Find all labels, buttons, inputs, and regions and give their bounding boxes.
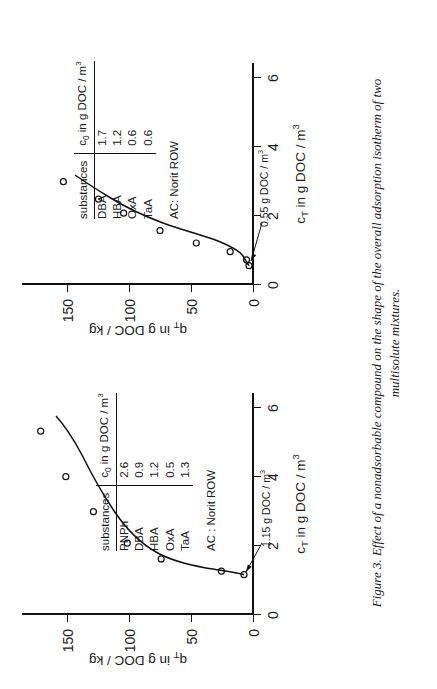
x-axis-sup-right: 3 bbox=[290, 124, 301, 129]
legend-c0-units-right: in g DOC / m bbox=[76, 66, 88, 136]
y-ticklabel-right-1: 50 bbox=[184, 299, 200, 315]
legend-row: HBA 1.2 bbox=[110, 61, 125, 219]
legend-row: TaA 1.3 bbox=[178, 393, 193, 551]
y-axis-symbol-right: q bbox=[180, 323, 188, 338]
legend-row: DBA 1.7 bbox=[95, 61, 111, 219]
legend-header-substances-right: substances bbox=[74, 153, 95, 219]
y-ticklabel-right-2: 100 bbox=[122, 299, 138, 322]
y-ticklabel-right-3: 150 bbox=[60, 299, 76, 322]
legend-ac-right: AC: Norit ROW bbox=[167, 61, 182, 219]
annotation-sup-right: 3 bbox=[256, 150, 265, 154]
legend-header-substances-left: substances bbox=[96, 485, 117, 551]
figure-caption: Figure 3. Effect of a nonadsorbable comp… bbox=[368, 57, 405, 629]
y-ticklabel-left-1: 50 bbox=[184, 629, 200, 645]
legend-substance-left-2: HBA bbox=[147, 485, 162, 551]
y-axis-title-left: qT in g DOC / kg bbox=[89, 650, 187, 668]
annotation-sup-left: 3 bbox=[258, 470, 267, 474]
x-tick-left-3 bbox=[254, 407, 261, 408]
legend-right: substances c0 in g DOC / m3 DBA 1.7 HBA … bbox=[74, 61, 182, 219]
x-axis-symbol-right: c bbox=[292, 217, 307, 224]
x-axis-title-right: cT in g DOC / m3 bbox=[290, 124, 310, 224]
legend-c0-right-3: 0.6 bbox=[141, 61, 156, 153]
legend-row: HBA 1.2 bbox=[147, 393, 162, 551]
x-axis-symbol-left: c bbox=[292, 547, 307, 554]
y-tick-right-2 bbox=[129, 285, 130, 292]
y-axis-sub-right: T bbox=[174, 320, 180, 331]
legend-c0-right-2: 0.6 bbox=[125, 61, 140, 153]
x-tick-right-3 bbox=[254, 77, 261, 78]
legend-substance-left-1: DBA bbox=[132, 485, 147, 551]
y-tick-left-3 bbox=[67, 615, 68, 622]
x-axis-units-right: in g DOC / m bbox=[292, 129, 307, 211]
y-axis-sub-left: T bbox=[174, 650, 180, 661]
y-ticklabel-left-2: 100 bbox=[122, 629, 138, 652]
legend-substance-right-0: DBA bbox=[95, 153, 111, 219]
y-axis-units-left: in g DOC / kg bbox=[89, 653, 174, 668]
page-rotator: 0 2 4 6 0 50 100 150 bbox=[0, 0, 437, 689]
legend-header-c0-left: c0 in g DOC / m3 bbox=[96, 393, 117, 485]
legend-c0-symbol-right: c bbox=[76, 140, 88, 146]
chart-panel-right: 0 2 4 6 0 50 100 150 bbox=[8, 41, 338, 341]
y-ticklabel-right-0: 0 bbox=[246, 299, 262, 307]
legend-substance-right-3: TaA bbox=[141, 153, 156, 219]
legend-c0-left-4: 1.3 bbox=[178, 393, 193, 485]
x-axis-sub-right: T bbox=[299, 211, 310, 217]
y-tick-left-0 bbox=[253, 615, 254, 622]
legend-c0-left-2: 1.2 bbox=[147, 393, 162, 485]
legend-substance-left-0: PNPh bbox=[117, 485, 133, 551]
legend-c0-left-1: 0.9 bbox=[132, 393, 147, 485]
legend-ac-left: AC : Norit ROW bbox=[204, 393, 219, 551]
legend-c0-sub-right: 0 bbox=[82, 135, 91, 140]
x-axis-sub-left: T bbox=[299, 541, 310, 547]
x-axis-units-left: in g DOC / m bbox=[292, 459, 307, 541]
legend-c0-sub-left: 0 bbox=[104, 467, 113, 472]
legend-c0-left-3: 0.5 bbox=[163, 393, 178, 485]
legend-row: OxA 0.5 bbox=[163, 393, 178, 551]
legend-left: substances c0 in g DOC / m3 PNPh 2.6 DBA… bbox=[96, 393, 219, 551]
chart-panel-left: 0 2 4 6 0 50 100 150 bbox=[8, 371, 338, 671]
legend-row: OxA 0.6 bbox=[125, 61, 140, 219]
legend-row: PNPh 2.6 bbox=[117, 393, 133, 551]
legend-substance-right-2: OxA bbox=[125, 153, 140, 219]
legend-substance-left-3: OxA bbox=[163, 485, 178, 551]
y-tick-left-2 bbox=[129, 615, 130, 622]
y-ticklabel-left-3: 150 bbox=[60, 629, 76, 652]
annotation-label-left: 1.15 g DOC / m3 bbox=[258, 470, 272, 547]
legend-table-left: substances c0 in g DOC / m3 PNPh 2.6 DBA… bbox=[96, 393, 193, 551]
x-tick-right-2 bbox=[254, 146, 261, 147]
y-axis-title-right: qT in g DOC / kg bbox=[89, 320, 187, 338]
legend-header-c0-right: c0 in g DOC / m3 bbox=[74, 61, 95, 153]
legend-substance-left-4: TaA bbox=[178, 485, 193, 551]
annotation-text-right: 0.55 g DOC / m bbox=[258, 154, 270, 227]
legend-c0-sup-right: 3 bbox=[74, 61, 83, 65]
legend-substance-right-1: HBA bbox=[110, 153, 125, 219]
y-tick-right-3 bbox=[67, 285, 68, 292]
legend-c0-sup-left: 3 bbox=[96, 393, 105, 397]
legend-row: DBA 0.9 bbox=[132, 393, 147, 551]
figure-page: 0 2 4 6 0 50 100 150 bbox=[0, 0, 437, 689]
y-tick-right-0 bbox=[253, 285, 254, 292]
y-axis-symbol-left: q bbox=[180, 653, 188, 668]
y-axis-units-right: in g DOC / kg bbox=[89, 323, 174, 338]
legend-row: TaA 0.6 bbox=[141, 61, 156, 219]
x-ticklabel-left-3: 6 bbox=[265, 404, 281, 412]
legend-c0-units-left: in g DOC / m bbox=[98, 398, 110, 468]
legend-table-right: substances c0 in g DOC / m3 DBA 1.7 HBA … bbox=[74, 61, 156, 219]
y-tick-left-1 bbox=[191, 615, 192, 622]
legend-header-row-left: substances c0 in g DOC / m3 bbox=[96, 393, 117, 551]
x-axis-sup-left: 3 bbox=[290, 454, 301, 459]
legend-c0-left-0: 2.6 bbox=[117, 393, 133, 485]
x-ticklabel-right-3: 6 bbox=[265, 74, 281, 82]
y-ticklabel-left-0: 0 bbox=[246, 629, 262, 637]
x-axis-title-left: cT in g DOC / m3 bbox=[290, 454, 310, 554]
legend-header-row-right: substances c0 in g DOC / m3 bbox=[74, 61, 95, 219]
annotation-label-right: 0.55 g DOC / m3 bbox=[256, 150, 270, 227]
y-tick-right-1 bbox=[191, 285, 192, 292]
annotation-text-left: 1.15 g DOC / m bbox=[260, 474, 272, 547]
legend-c0-right-1: 1.2 bbox=[110, 61, 125, 153]
legend-c0-symbol-left: c bbox=[98, 472, 110, 478]
legend-c0-right-0: 1.7 bbox=[95, 61, 111, 153]
